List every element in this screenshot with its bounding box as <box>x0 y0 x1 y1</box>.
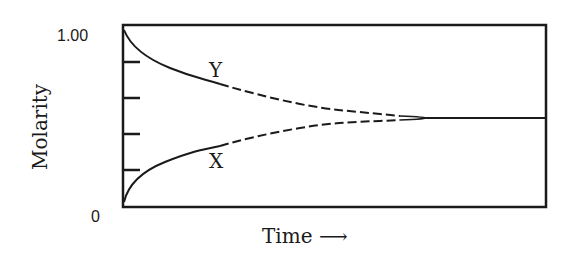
y-tick-label-top: 1.00 <box>57 27 88 44</box>
y-axis-title: Molarity <box>28 83 52 170</box>
series-x-curve <box>124 120 400 202</box>
series-y-label: Y <box>208 58 223 82</box>
y-axis-ticks <box>123 62 140 170</box>
series-y-curve <box>124 30 400 116</box>
plot-frame <box>123 25 546 207</box>
series-x-label: X <box>209 149 224 173</box>
molarity-chart: Y X 1.00 0 Molarity Time ⟶ <box>0 0 563 257</box>
y-tick-label-bottom: 0 <box>91 208 100 225</box>
equilibrium-line <box>400 116 546 120</box>
x-axis-title: Time ⟶ <box>262 224 348 248</box>
